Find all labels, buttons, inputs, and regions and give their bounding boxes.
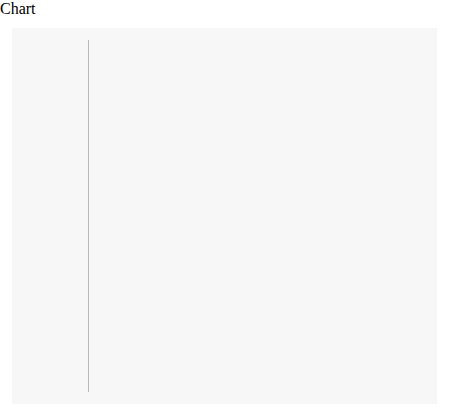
y-axis-line	[88, 40, 89, 392]
chart-title-block	[165, 80, 437, 114]
chart-title	[165, 80, 437, 95]
chart-figure	[0, 18, 449, 408]
